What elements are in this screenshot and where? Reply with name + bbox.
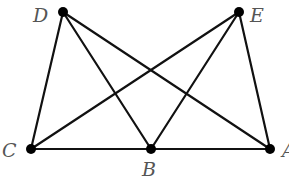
label-C: C (2, 139, 17, 161)
point-A (265, 144, 275, 154)
geometry-diagram: DECBA (0, 0, 289, 178)
segment-DA (63, 12, 270, 149)
label-B: B (141, 158, 156, 178)
segment-EA (239, 12, 270, 149)
point-C (26, 144, 36, 154)
segment-DB (63, 12, 151, 149)
point-B (146, 144, 156, 154)
segment-EC (31, 12, 239, 149)
label-D: D (32, 4, 48, 26)
point-E (234, 7, 244, 17)
label-E: E (249, 4, 264, 26)
segments (31, 12, 270, 149)
points (26, 7, 275, 154)
segment-DC (31, 12, 63, 149)
point-D (58, 7, 68, 17)
label-A: A (280, 139, 289, 161)
segment-EB (151, 12, 239, 149)
